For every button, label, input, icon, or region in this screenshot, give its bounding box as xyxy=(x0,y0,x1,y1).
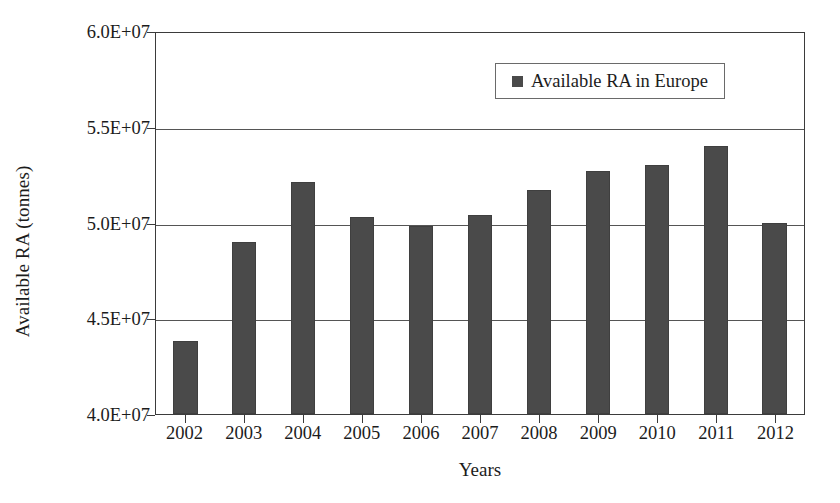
x-axis-tick-label: 2010 xyxy=(628,424,687,452)
bar-2002[interactable] xyxy=(173,341,197,414)
bar-2008[interactable] xyxy=(527,190,551,414)
x-axis-tick-labels: 2002200320042005200620072008200920102011… xyxy=(155,424,805,452)
bar-2012[interactable] xyxy=(762,223,786,415)
y-axis-tick-mark xyxy=(147,128,155,129)
x-axis-tick-label: 2008 xyxy=(510,424,569,452)
x-axis-tick-mark xyxy=(303,415,304,423)
bar-2010[interactable] xyxy=(645,165,669,414)
bar-2006[interactable] xyxy=(409,226,433,414)
bar-2011[interactable] xyxy=(704,146,728,414)
x-axis-tick-mark xyxy=(598,415,599,423)
y-axis-tick-mark xyxy=(147,32,155,33)
bar-2004[interactable] xyxy=(291,182,315,414)
x-axis-title: Years xyxy=(155,459,805,481)
x-axis-tick-label: 2012 xyxy=(746,424,805,452)
y-axis-tick-labels: 4.0E+074.5E+075.0E+075.5E+076.0E+07 xyxy=(46,0,150,503)
x-axis-tick-label: 2009 xyxy=(569,424,628,452)
bar-slot xyxy=(274,33,333,414)
legend-label: Available RA in Europe xyxy=(531,72,708,91)
y-axis-tick-label: 6.0E+07 xyxy=(46,23,150,42)
x-axis-tick-label: 2011 xyxy=(687,424,746,452)
x-axis-tick-label: 2005 xyxy=(332,424,391,452)
x-axis-tick-mark xyxy=(539,415,540,423)
x-axis-tick-mark xyxy=(362,415,363,423)
x-axis-tick-mark xyxy=(480,415,481,423)
bar-2007[interactable] xyxy=(468,215,492,414)
bar-slot xyxy=(392,33,451,414)
bar-chart-figure: Available RA (tonnes) 4.0E+074.5E+075.0E… xyxy=(0,0,840,503)
bar-2003[interactable] xyxy=(232,242,256,414)
x-axis-tick-label: 2003 xyxy=(214,424,273,452)
bar-slot xyxy=(156,33,215,414)
x-axis-tick-label: 2002 xyxy=(155,424,214,452)
bar-slot xyxy=(745,33,804,414)
x-axis-tick-mark xyxy=(185,415,186,423)
y-axis-title: Available RA (tonnes) xyxy=(0,0,46,503)
x-axis-tick-mark xyxy=(775,415,776,423)
legend-swatch-icon xyxy=(512,76,523,87)
x-axis-tick-label: 2004 xyxy=(273,424,332,452)
y-axis-tick-label: 4.0E+07 xyxy=(46,406,150,425)
x-axis-tick-mark xyxy=(244,415,245,423)
y-axis-tick-label: 5.5E+07 xyxy=(46,119,150,138)
y-axis-tick-mark xyxy=(147,319,155,320)
y-axis-tick-label: 5.0E+07 xyxy=(46,215,150,234)
y-axis-tick-mark xyxy=(147,415,155,416)
x-axis-tick-mark xyxy=(716,415,717,423)
x-axis-tick-label: 2006 xyxy=(391,424,450,452)
y-axis-tick-mark xyxy=(147,224,155,225)
bar-2005[interactable] xyxy=(350,217,374,414)
x-axis-tick-mark xyxy=(421,415,422,423)
bar-slot xyxy=(215,33,274,414)
bar-slot xyxy=(333,33,392,414)
y-axis-tick-label: 4.5E+07 xyxy=(46,310,150,329)
x-axis-tick-label: 2007 xyxy=(450,424,509,452)
x-axis-tick-mark xyxy=(657,415,658,423)
chart-legend: Available RA in Europe xyxy=(495,63,725,99)
bar-2009[interactable] xyxy=(586,171,610,414)
